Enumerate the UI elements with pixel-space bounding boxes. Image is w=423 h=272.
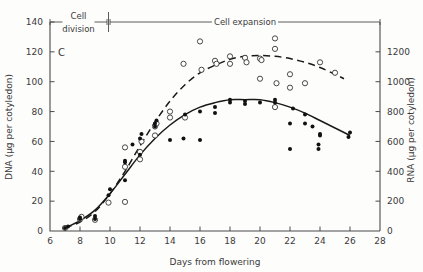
data-point-rna: [259, 57, 264, 62]
data-point-dna: [347, 135, 351, 139]
y-tick-left-label: 0: [37, 226, 43, 236]
phase-label-expansion: Cell expansion: [214, 17, 276, 27]
data-point-dna: [138, 153, 142, 157]
data-point-rna: [287, 85, 292, 90]
data-point-dna: [78, 216, 82, 220]
data-point-dna: [123, 159, 127, 163]
x-tick-label: 28: [374, 236, 386, 246]
data-point-dna: [288, 147, 292, 151]
data-point-rna: [272, 36, 277, 41]
data-point-rna: [272, 46, 277, 51]
data-point-dna: [198, 138, 202, 142]
panel-label: C: [58, 47, 65, 58]
data-point-dna: [198, 110, 202, 114]
y-tick-right-label: 1200: [387, 47, 410, 57]
data-point-rna: [317, 60, 322, 65]
x-tick-label: 10: [104, 236, 116, 246]
data-point-dna: [108, 187, 112, 191]
data-point-dna: [228, 98, 232, 102]
data-point-rna: [122, 199, 127, 204]
y-tick-left-label: 20: [32, 196, 44, 206]
data-point-dna: [273, 101, 277, 105]
data-point-rna: [181, 61, 186, 66]
y-tick-right-label: 200: [387, 196, 404, 206]
data-point-rna: [167, 115, 172, 120]
data-point-dna: [318, 132, 322, 136]
data-point-rna: [122, 164, 127, 169]
x-tick-label: 24: [314, 236, 326, 246]
data-point-dna: [317, 142, 321, 146]
data-point-rna: [244, 60, 249, 65]
y-tick-right-label: 600: [387, 137, 404, 147]
data-point-dna: [291, 107, 295, 111]
x-tick-label: 22: [284, 236, 295, 246]
data-point-rna: [106, 200, 111, 205]
data-point-dna: [243, 99, 247, 103]
data-point-rna: [227, 54, 232, 59]
y-tick-right-label: 800: [387, 107, 404, 117]
data-point-dna: [258, 101, 262, 105]
data-point-dna: [155, 119, 159, 123]
data-point-rna: [287, 72, 292, 77]
y-tick-left-label: 100: [26, 77, 43, 87]
x-tick-label: 14: [164, 236, 176, 246]
data-point-dna: [311, 125, 315, 129]
data-point-rna: [274, 81, 279, 86]
data-point-dna: [107, 193, 111, 197]
curve-DNA-fit: [65, 99, 350, 228]
figure-panel-c: CelldivisionCell expansion 6810121416182…: [0, 0, 423, 272]
data-point-dna: [348, 130, 352, 134]
data-point-rna: [199, 67, 204, 72]
data-point-rna: [167, 109, 172, 114]
x-axis-title: Days from flowering: [170, 257, 261, 267]
y-tick-left-label: 140: [26, 17, 43, 27]
x-tick-group: 6810121416182022242628: [47, 227, 386, 247]
data-point-dna: [317, 147, 321, 151]
data-point-dna: [131, 142, 135, 146]
phase-annotation-group: CelldivisionCell expansion: [50, 11, 380, 34]
y-tick-left-label: 120: [26, 47, 43, 57]
y-tick-left-label: 80: [32, 107, 44, 117]
x-tick-label: 16: [194, 236, 206, 246]
data-point-dna: [138, 136, 142, 140]
data-point-rna: [257, 76, 262, 81]
data-point-rna: [227, 61, 232, 66]
x-tick-label: 18: [224, 236, 236, 246]
data-point-rna: [214, 61, 219, 66]
y-tick-right-group: 020040060080010001200: [376, 47, 411, 236]
data-point-rna: [137, 157, 142, 162]
y-tick-left-label: 40: [32, 167, 44, 177]
data-point-dna: [303, 113, 307, 117]
x-tick-label: 12: [134, 236, 145, 246]
data-point-rna: [152, 133, 157, 138]
data-point-rna: [302, 81, 307, 86]
phase-label-division-line2: division: [62, 24, 95, 34]
x-tick-label: 6: [47, 236, 53, 246]
x-tick-label: 20: [254, 236, 266, 246]
y-tick-left-label: 60: [32, 137, 44, 147]
data-point-dna: [183, 113, 187, 117]
dna-point-group: [63, 98, 352, 230]
data-point-dna: [182, 136, 186, 140]
data-point-dna: [303, 122, 307, 126]
chart-canvas: CelldivisionCell expansion 6810121416182…: [0, 0, 423, 272]
data-point-dna: [66, 225, 70, 229]
data-point-dna: [123, 178, 127, 182]
y-tick-right-label: 400: [387, 167, 404, 177]
data-point-dna: [168, 138, 172, 142]
data-point-dna: [288, 122, 292, 126]
y-axis-right-title: RNA (µg per cotyledon): [406, 77, 416, 182]
data-point-rna: [122, 145, 127, 150]
y-tick-right-label: 0: [387, 226, 393, 236]
phase-label-division-line1: Cell: [71, 11, 87, 21]
x-tick-label: 8: [77, 236, 83, 246]
data-point-rna: [197, 39, 202, 44]
data-point-dna: [140, 132, 144, 136]
x-tick-label: 26: [344, 236, 356, 246]
data-point-rna: [332, 70, 337, 75]
y-axis-left-title: DNA (µg per cotyledon): [4, 74, 14, 180]
data-point-dna: [213, 111, 217, 115]
data-point-rna: [272, 104, 277, 109]
data-point-dna: [93, 214, 97, 218]
data-point-dna: [213, 105, 217, 109]
